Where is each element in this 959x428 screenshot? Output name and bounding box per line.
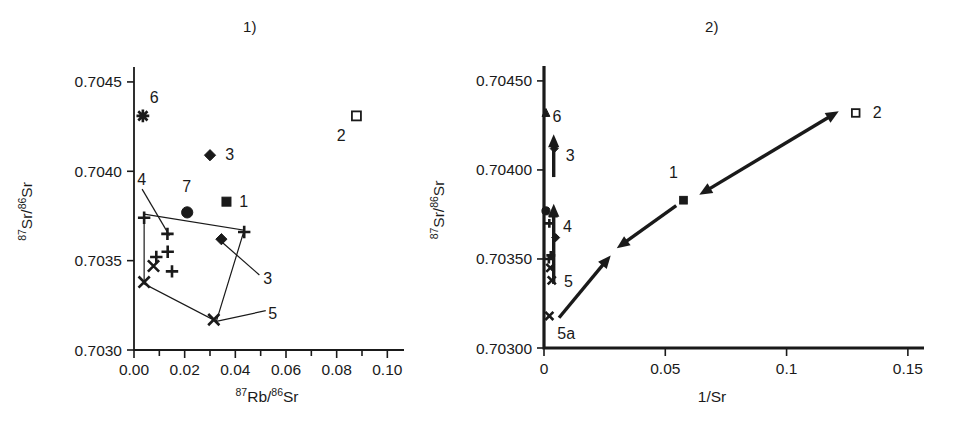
point-label-5: 5 [268,305,277,322]
x-tick-label: 0.1 [776,360,798,377]
y-axis-title: 87Sr/86Sr [16,182,35,241]
panel-2-axes: 0.703000.703500.704000.7045000.050.10.15… [428,66,924,405]
panel-1: 1) 0.70300.70350.70400.70450.000.020.040… [0,0,460,428]
mixing-arrow-1-down-shaft [623,206,676,244]
point-label-5a: 5a [557,325,575,342]
x-tick-label: 0.02 [170,361,200,378]
x-tick-label: 0.04 [220,361,251,378]
marker-plus [161,228,173,240]
panel-1-axes: 0.70300.70350.70400.70450.000.020.040.06… [16,67,404,405]
point-label-2: 2 [337,127,346,144]
marker-filled-circle [542,207,550,215]
x-tick-label: 0.08 [322,361,352,378]
marker-filled-diamond [204,150,215,161]
marker-plus [166,265,178,277]
field-hull [144,214,244,321]
isotope-figure: 1) 0.70300.70350.70400.70450.000.020.040… [0,0,959,428]
point-label-6: 6 [150,89,159,106]
marker-open-square [352,111,361,120]
point-label-3: 3 [566,147,575,164]
data-markers [136,109,360,325]
x-tick-label: 0.00 [119,361,150,378]
marker-x-cross [545,312,553,320]
point-label-4: 4 [563,218,572,235]
marker-filled-diamond [216,234,227,245]
point-label-3: 3 [225,146,234,163]
x-tick-label: 0.15 [893,360,923,377]
mixing-vectors [548,111,839,318]
marker-open-square [852,109,860,117]
point-labels: 12334567 [137,89,345,322]
marker-filled-circle [182,207,193,218]
panel-2: 2) 0.703000.703500.704000.7045000.050.10… [460,0,959,428]
panel-1-plot: 0.70300.70350.70400.70450.000.020.040.06… [0,0,460,428]
y-tick-label: 0.7045 [75,73,122,90]
x-tick-label: 0.06 [271,361,301,378]
point-label-4: 4 [137,171,146,188]
point-label-3: 3 [263,270,272,287]
leader-5 [216,311,265,322]
marker-star [136,109,149,122]
marker-x-cross [208,314,219,325]
marker-plus [138,212,150,224]
vertical-arrow-upper-head [548,134,559,147]
y-tick-label: 0.7040 [75,163,123,180]
point-labels: 123455a6 [552,104,881,342]
leader-4 [142,189,169,235]
x-tick-label: 0.05 [650,360,680,377]
point-label-5: 5 [564,273,573,290]
hull-polygon [144,214,244,321]
data-markers [542,108,860,319]
x-tick-label: 0.10 [372,361,403,378]
x-axis-title: 1/Sr [698,388,726,405]
point-label-1: 1 [239,193,248,210]
x-tick-label: 0 [540,360,549,377]
marker-plus [161,246,173,258]
point-label-2: 2 [873,104,882,121]
marker-plus [238,226,250,238]
marker-x-cross [148,260,159,271]
point-label-1: 1 [669,164,678,181]
y-tick-label: 0.70350 [476,250,532,267]
y-tick-label: 0.70450 [476,72,532,89]
y-tick-label: 0.7035 [75,252,122,269]
leader-3 [223,243,260,275]
marker-filled-square [222,197,231,206]
point-label-6: 6 [552,108,561,125]
marker-filled-square [680,196,688,204]
y-tick-label: 0.70400 [476,161,532,178]
panel-2-plot: 0.703000.703500.704000.7045000.050.10.15… [460,0,959,428]
y-tick-label: 0.7030 [75,342,123,359]
y-tick-label: 0.70300 [476,340,532,357]
mixing-arrow-1-to-2-shaft [706,115,832,191]
axis-lines [544,66,924,348]
point-label-7: 7 [182,178,191,195]
x-axis-title: 87Rb/86Sr [236,386,299,405]
